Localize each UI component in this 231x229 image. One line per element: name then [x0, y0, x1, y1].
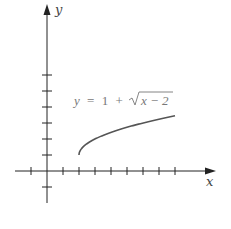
graph-canvas: y x y = 1 + x − 2 — [0, 0, 231, 229]
x-axis-label: x — [206, 174, 214, 189]
equation-plus: + — [115, 93, 122, 108]
equation-one: 1 — [102, 93, 109, 108]
equation-annotation: y = 1 + x − 2 — [72, 92, 173, 108]
y-axis-arrow-icon — [44, 4, 51, 15]
equation-lhs: y — [72, 93, 80, 108]
svg-text:y = 1 +: y = 1 + — [72, 93, 123, 108]
equation-radicand: x − 2 — [140, 93, 169, 108]
function-curve — [79, 116, 175, 155]
y-axis-label: y — [54, 2, 63, 17]
equation-equals: = — [87, 93, 94, 108]
